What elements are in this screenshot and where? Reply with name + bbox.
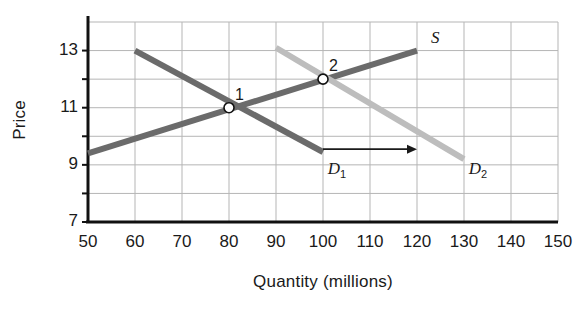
series-label-d2: D2 (469, 159, 487, 180)
series-label-d1: D1 (328, 159, 346, 180)
series-label-subscript: 2 (481, 169, 487, 181)
series-label-subscript: 1 (340, 169, 346, 181)
point-label-1: 1 (235, 86, 244, 104)
gridlines (88, 22, 558, 222)
point-label-2: 2 (329, 57, 338, 75)
equilibrium-point-2 (318, 74, 328, 84)
plot-area (0, 0, 586, 310)
shift-arrow-head (407, 145, 417, 154)
supply-demand-chart: Price Quantity (millions) 131197 5060708… (0, 0, 586, 310)
axis-lines (82, 16, 558, 222)
equilibrium-point-1 (224, 103, 234, 113)
series-label-s: S (431, 28, 440, 48)
